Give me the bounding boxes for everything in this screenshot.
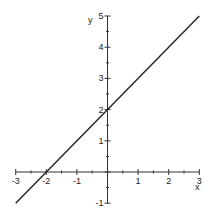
y-tick-label: 1 bbox=[98, 136, 103, 146]
y-axis-label: y bbox=[88, 15, 93, 25]
y-tick-label: 5 bbox=[98, 11, 103, 21]
line-chart: -3-2-1123-112345 x y bbox=[0, 0, 212, 215]
x-tick-label: -3 bbox=[12, 176, 20, 186]
y-tick-label: 2 bbox=[98, 105, 103, 115]
y-tick-label: 4 bbox=[98, 42, 103, 52]
x-tick-label: 1 bbox=[136, 176, 141, 186]
x-tick-label: -1 bbox=[73, 176, 81, 186]
x-tick-label: 2 bbox=[166, 176, 171, 186]
x-tick-label: -2 bbox=[42, 176, 50, 186]
y-tick-label: -1 bbox=[95, 198, 103, 208]
x-axis-label: x bbox=[195, 182, 200, 192]
y-tick-label: 3 bbox=[98, 73, 103, 83]
